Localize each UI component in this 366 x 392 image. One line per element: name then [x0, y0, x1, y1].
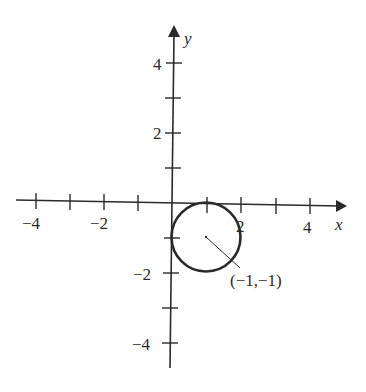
y-tick-label-4: 4	[153, 55, 162, 74]
center-annotation: (−1,−1)	[230, 271, 282, 290]
x-tick-label-neg4: −4	[22, 214, 41, 233]
x-tick-label-neg2: −2	[90, 214, 108, 233]
y-axis	[170, 34, 174, 368]
y-axis-label: y	[182, 29, 192, 48]
annotation-leader-line	[206, 237, 240, 268]
x-axis-label: x	[334, 215, 343, 234]
y-tick-label-2: 2	[153, 124, 162, 143]
x-tick-label-4: 4	[303, 218, 312, 237]
x-axis-arrow-icon	[336, 200, 347, 212]
y-tick-label-neg2: −2	[133, 265, 151, 284]
y-axis-arrow-icon	[168, 25, 180, 37]
y-tick-label-neg4: −4	[132, 335, 151, 354]
coordinate-plane: y x −4 −2 2 4 4 2 −2 −4 (−1,−1)	[0, 0, 366, 392]
x-axis	[16, 200, 340, 206]
